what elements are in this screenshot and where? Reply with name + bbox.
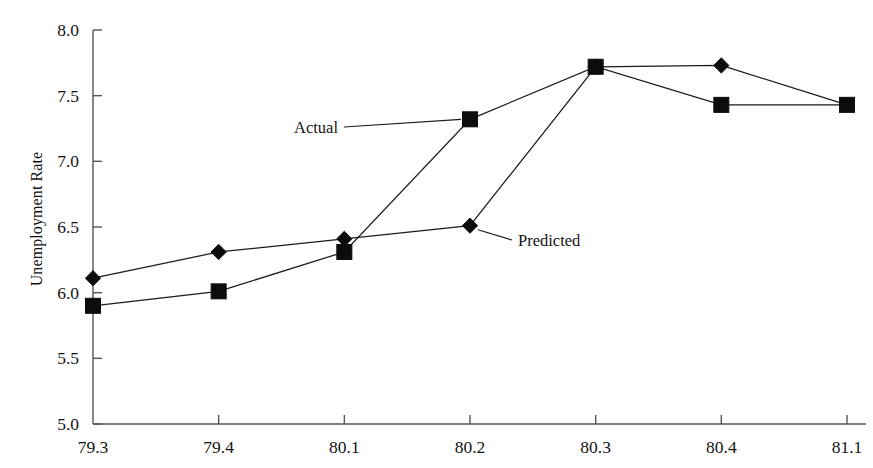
y-tick-label: 6.5 bbox=[57, 217, 79, 237]
y-tick-label: 5.0 bbox=[57, 414, 79, 434]
y-axis-label-container: Unemployment Rate bbox=[14, 0, 48, 468]
y-tick-label: 7.5 bbox=[57, 86, 79, 106]
x-tick-label: 80.2 bbox=[455, 437, 486, 457]
y-axis-title: Unemployment Rate bbox=[28, 124, 46, 314]
y-tick-label: 5.5 bbox=[57, 348, 79, 368]
line-chart-plot: 5.05.56.06.57.07.58.0 79.379.480.180.280… bbox=[0, 0, 873, 468]
data-point-marker-square bbox=[211, 284, 226, 299]
x-tick-label: 80.1 bbox=[329, 437, 360, 457]
x-tick-label: 80.4 bbox=[706, 437, 737, 457]
data-point-marker-square bbox=[463, 112, 478, 127]
data-point-marker-square bbox=[714, 97, 729, 112]
data-point-marker-square bbox=[840, 97, 855, 112]
y-tick-label: 8.0 bbox=[57, 20, 79, 40]
chart-figure: Unemployment Rate 5.05.56.06.57.07.58.0 … bbox=[0, 0, 873, 468]
x-tick-label: 80.3 bbox=[580, 437, 611, 457]
chart-background bbox=[0, 0, 873, 468]
data-point-marker-square bbox=[86, 298, 101, 313]
annotation-label-predicted: Predicted bbox=[518, 231, 581, 250]
data-point-marker-square bbox=[337, 244, 352, 259]
x-tick-label: 81.1 bbox=[832, 437, 863, 457]
x-tick-label: 79.4 bbox=[203, 437, 234, 457]
x-tick-label: 79.3 bbox=[78, 437, 109, 457]
annotation-label-actual: Actual bbox=[294, 118, 338, 137]
y-tick-label: 6.0 bbox=[57, 283, 79, 303]
y-tick-label: 7.0 bbox=[57, 151, 79, 171]
data-point-marker-square bbox=[588, 59, 603, 74]
